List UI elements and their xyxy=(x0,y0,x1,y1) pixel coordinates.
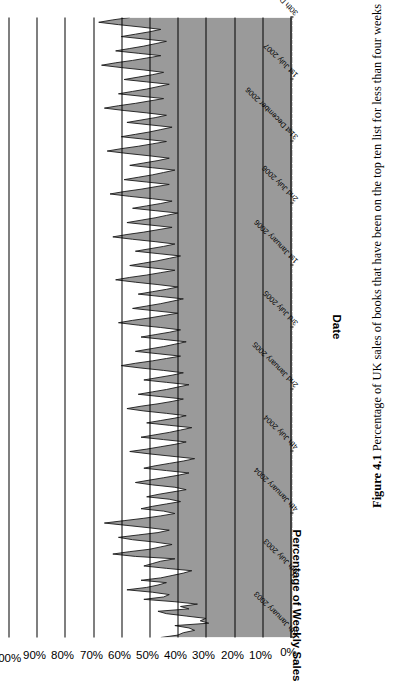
x-minor-tick xyxy=(290,409,292,410)
x-minor-tick xyxy=(290,235,292,236)
x-minor-tick xyxy=(290,302,292,303)
x-minor-tick xyxy=(290,398,292,399)
x-minor-tick xyxy=(290,178,292,179)
x-minor-tick xyxy=(290,285,292,286)
gridline xyxy=(121,17,122,637)
y-tick-label: 80% xyxy=(56,643,68,697)
y-tick-label-text: 30% xyxy=(192,649,215,661)
x-minor-tick xyxy=(290,269,292,270)
x-minor-tick xyxy=(290,347,292,348)
x-minor-tick xyxy=(290,243,292,244)
x-axis-title-text: Date xyxy=(330,315,342,340)
x-minor-tick xyxy=(290,116,292,117)
gridline xyxy=(64,17,65,637)
x-minor-tick xyxy=(290,357,292,358)
chart-rotation-container: 0%10%20%30%40%50%60%70%80%90%100% 5th Ja… xyxy=(0,0,356,697)
x-minor-tick xyxy=(290,18,292,19)
gridline xyxy=(149,17,150,637)
x-minor-tick xyxy=(290,216,292,217)
x-minor-tick xyxy=(290,395,292,396)
x-minor-tick xyxy=(290,226,292,227)
x-minor-tick xyxy=(290,214,292,215)
x-minor-tick xyxy=(290,57,292,58)
x-minor-tick xyxy=(290,35,292,36)
x-minor-tick xyxy=(290,152,292,153)
y-tick-label: 70% xyxy=(85,643,97,697)
x-minor-tick xyxy=(290,307,292,308)
x-minor-tick xyxy=(290,460,292,461)
x-minor-tick xyxy=(290,183,292,184)
x-minor-tick xyxy=(290,283,292,284)
x-minor-tick xyxy=(290,97,292,98)
x-minor-tick xyxy=(290,181,292,182)
x-tick-label: 4th July 2004 xyxy=(293,406,302,451)
x-minor-tick xyxy=(290,114,292,115)
x-minor-tick xyxy=(290,412,292,413)
gridline xyxy=(8,17,9,637)
x-minor-tick xyxy=(290,42,292,43)
x-minor-tick xyxy=(290,173,292,174)
x-minor-tick xyxy=(290,274,292,275)
x-minor-tick xyxy=(290,223,292,224)
x-tick-label: 4th January 2004 xyxy=(293,454,302,513)
x-minor-tick xyxy=(290,150,292,151)
x-minor-tick xyxy=(290,240,292,241)
x-minor-tick xyxy=(290,49,292,50)
x-tick-label: 2nd January 2005 xyxy=(293,328,302,389)
x-minor-tick xyxy=(290,486,292,487)
x-tick-label: 3rd July 2005 xyxy=(293,281,302,327)
x-minor-tick xyxy=(290,245,292,246)
x-minor-tick xyxy=(290,121,292,122)
x-minor-tick xyxy=(290,471,292,472)
x-minor-tick xyxy=(290,488,292,489)
x-minor-tick xyxy=(290,328,292,329)
x-minor-tick xyxy=(290,111,292,112)
x-minor-tick xyxy=(290,479,292,480)
y-axis-title: Percentage of Weekly Sales xyxy=(290,505,302,697)
x-minor-tick xyxy=(290,271,292,272)
x-minor-tick xyxy=(290,467,292,468)
x-minor-tick xyxy=(290,247,292,248)
y-tick-label-text: 70% xyxy=(79,649,102,661)
gridline xyxy=(205,17,206,637)
x-minor-tick xyxy=(290,402,292,403)
x-minor-tick xyxy=(290,228,292,229)
x-minor-tick xyxy=(290,340,292,341)
x-minor-tick xyxy=(290,52,292,53)
gridline xyxy=(36,17,37,637)
x-minor-tick xyxy=(290,83,292,84)
y-tick-label-text: 20% xyxy=(220,649,243,661)
x-minor-tick xyxy=(290,352,292,353)
x-minor-tick xyxy=(290,166,292,167)
x-minor-tick xyxy=(290,290,292,291)
x-minor-tick xyxy=(290,493,292,494)
figure-number: Figure 4.1 xyxy=(370,454,384,507)
x-minor-tick xyxy=(290,145,292,146)
x-minor-tick xyxy=(290,481,292,482)
x-minor-tick xyxy=(290,233,292,234)
x-minor-tick xyxy=(290,417,292,418)
x-minor-tick xyxy=(290,407,292,408)
x-minor-tick xyxy=(290,350,292,351)
x-minor-tick xyxy=(290,333,292,334)
plot-area xyxy=(8,17,290,637)
x-tick-label-text: 30th December 2007 xyxy=(243,0,300,17)
x-minor-tick xyxy=(290,345,292,346)
x-minor-tick xyxy=(290,204,292,205)
gridline xyxy=(234,17,235,637)
x-minor-tick xyxy=(290,28,292,29)
x-minor-tick xyxy=(290,362,292,363)
y-tick-label: 90% xyxy=(28,643,40,697)
y-tick-label: 40% xyxy=(169,643,181,697)
x-minor-tick xyxy=(290,293,292,294)
x-minor-tick xyxy=(290,88,292,89)
x-minor-tick xyxy=(290,338,292,339)
x-minor-tick xyxy=(290,278,292,279)
x-minor-tick xyxy=(290,185,292,186)
x-minor-tick xyxy=(290,424,292,425)
x-minor-tick xyxy=(290,476,292,477)
x-minor-tick xyxy=(290,147,292,148)
y-tick-label-text: 80% xyxy=(51,649,74,661)
x-minor-tick xyxy=(290,54,292,55)
x-minor-tick xyxy=(290,169,292,170)
